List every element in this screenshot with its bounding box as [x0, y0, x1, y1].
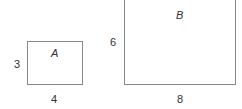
- rectangle-b-width-label: 8: [177, 93, 183, 105]
- rectangle-a-name: A: [51, 47, 58, 59]
- rectangle-a-width-label: 4: [51, 93, 57, 105]
- rectangle-b-height-label: 6: [110, 36, 116, 48]
- rectangle-b-name: B: [176, 9, 183, 21]
- rectangle-a-height-label: 3: [14, 58, 20, 70]
